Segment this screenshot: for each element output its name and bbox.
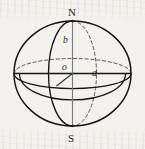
south-pole-point (71, 125, 73, 127)
north-pole-label: N (68, 7, 76, 18)
semi-minor-axis-label: b (63, 36, 68, 46)
north-pole-point (71, 20, 73, 22)
ellipsoid-diagram-canvas (0, 0, 145, 149)
semi-major-axis-label: a (92, 69, 97, 79)
south-pole-label: S (68, 133, 74, 144)
ellipsoid-figure: N S b o a (0, 0, 145, 149)
centre-label: o (62, 63, 67, 73)
